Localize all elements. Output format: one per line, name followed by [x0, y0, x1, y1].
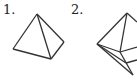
- figure-2-polyhedron: [97, 13, 137, 75]
- figures-canvas: [0, 0, 137, 84]
- figure-1-tetrahedron: [13, 14, 64, 59]
